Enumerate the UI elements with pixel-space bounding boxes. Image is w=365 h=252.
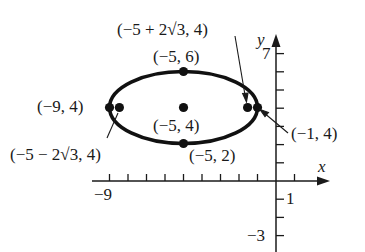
top-vertex-point: [179, 67, 188, 76]
right-focus-arrow-icon: [243, 93, 248, 102]
left-focus-label: (−5 − 2√3, 4): [10, 145, 101, 164]
left-focus-point: [115, 103, 124, 112]
right-focus-label: (−5 + 2√3, 4): [117, 20, 208, 39]
x-tick-label-1: 1: [286, 189, 295, 208]
x-axis-label: x: [317, 157, 326, 176]
right-vertex-label: (−1, 4): [291, 124, 337, 143]
ellipse-diagram: x y −9 1 7 −3: [0, 0, 365, 252]
left-vertex-label: (−9, 4): [37, 97, 83, 116]
y-tick-label-neg3: −3: [247, 226, 265, 245]
points: [105, 67, 262, 148]
top-vertex-label: (−5, 6): [153, 47, 199, 66]
left-vertex-point: [105, 103, 114, 112]
x-ticks: [110, 174, 295, 181]
bottom-vertex-label: (−5, 2): [189, 146, 235, 165]
x-axis-arrow-icon: [317, 177, 330, 186]
y-ticks: [276, 54, 284, 236]
bottom-vertex-point: [179, 139, 188, 148]
x-tick-label-neg9: −9: [94, 185, 112, 204]
center-point: [179, 103, 188, 112]
right-focus-point: [243, 103, 252, 112]
y-axis-arrow-icon: [272, 34, 281, 47]
right-focus-leader: [235, 36, 246, 98]
center-label: (−5, 4): [153, 116, 199, 135]
y-tick-label-7: 7: [262, 44, 271, 63]
